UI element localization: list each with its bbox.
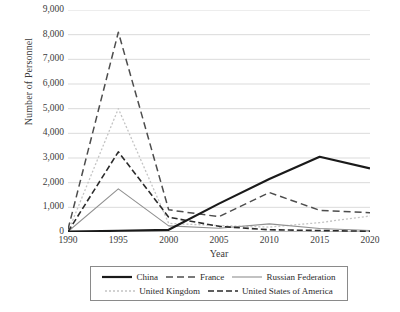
legend-row: ChinaFranceRussian Federation <box>96 270 342 284</box>
legend-label: United States of America <box>242 286 333 296</box>
legend-item-russian-federation[interactable]: Russian Federation <box>232 272 335 282</box>
y-axis-tick-label: 6,000 <box>22 79 64 89</box>
series-line <box>68 152 370 232</box>
legend-item-united-kingdom[interactable]: United Kingdom <box>105 286 200 296</box>
legend-line-swatch <box>232 272 262 282</box>
x-axis-tick-label: 2000 <box>145 234 193 246</box>
chart-legend: ChinaFranceRussian FederationUnited King… <box>90 266 348 301</box>
y-axis-tick-label: 8,000 <box>22 30 64 40</box>
y-axis-tick-label: 3,000 <box>22 153 64 163</box>
y-axis-tick-label: 7,000 <box>22 54 64 64</box>
legend-label: United Kingdom <box>139 286 200 296</box>
series-line <box>68 109 370 232</box>
y-axis-tick-label: 9,000 <box>22 5 64 15</box>
legend-line-swatch <box>166 272 196 282</box>
legend-row: United KingdomUnited States of America <box>96 284 342 298</box>
legend-item-united-states-of-america[interactable]: United States of America <box>208 286 333 296</box>
x-axis-tick-label: 1990 <box>44 234 92 246</box>
series-line <box>68 32 370 229</box>
legend-line-swatch <box>102 272 132 282</box>
y-axis-tick-labels: 01,0002,0003,0004,0005,0006,0007,0008,00… <box>22 0 64 240</box>
legend-item-china[interactable]: China <box>102 272 158 282</box>
legend-label: France <box>200 272 225 282</box>
y-axis-tick-label: 2,000 <box>22 178 64 188</box>
y-axis-tick-label: 5,000 <box>22 104 64 114</box>
legend-line-swatch <box>208 286 238 296</box>
line-chart: Number of Personnel 01,0002,0003,0004,00… <box>0 0 400 312</box>
plot-area <box>68 10 370 232</box>
y-axis-tick-label: 1,000 <box>22 202 64 212</box>
series-line <box>68 157 370 232</box>
x-axis-title: Year <box>68 248 370 259</box>
x-axis-tick-label: 2005 <box>195 234 243 246</box>
x-axis-tick-label: 2010 <box>245 234 293 246</box>
legend-line-swatch <box>105 286 135 296</box>
x-axis-tick-label: 2020 <box>346 234 394 246</box>
x-axis-tick-label: 2015 <box>296 234 344 246</box>
y-axis-tick-label: 4,000 <box>22 128 64 138</box>
legend-label: Russian Federation <box>266 272 335 282</box>
x-axis-tick-label: 1995 <box>94 234 142 246</box>
legend-label: China <box>136 272 158 282</box>
plot-svg <box>68 10 370 232</box>
legend-item-france[interactable]: France <box>166 272 225 282</box>
